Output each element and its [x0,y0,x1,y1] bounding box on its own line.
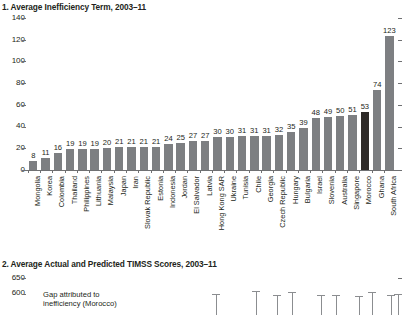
panel1-x-axis-label: Mongolia [33,176,42,206]
panel2-error-bar [216,294,217,315]
panel1-bar-group: 39 [298,18,310,170]
panel1-x-axis-label: Ghana [377,176,386,198]
panel1-bar-group: 31 [261,18,273,170]
panel2-annotation-line1: Gap attributed to [43,290,163,299]
panel1-x-axis-label: Slovenia [327,176,336,204]
panel1-x-tick-mark [261,170,262,173]
panel1-bar-group: 74 [371,18,383,170]
panel1-bar [176,143,184,170]
panel1-bar [262,136,270,170]
panel1-bar [103,148,111,170]
panel1-x-tick-mark [298,170,299,173]
panel1-bar [140,147,148,170]
panel1-x-tick-mark [126,170,127,173]
panel1-x-axis-label: Philippines [82,176,91,212]
panel1-x-axis-label: Georgia [266,176,275,202]
panel-actual-predicted-timss-scores: 2. Average Actual and Predicted TIMSS Sc… [0,258,404,315]
panel1-bar-group: 25 [175,18,187,170]
panel2-title: 2. Average Actual and Predicted TIMSS Sc… [2,259,217,269]
panel1-bar-group: 27 [187,18,199,170]
panel1-bar-group: 21 [150,18,162,170]
panel1-bar [164,144,172,170]
panel1-x-axis-label: Ukraine [229,176,238,201]
panel1-x-tick-mark [273,170,274,173]
panel1-x-tick-mark [347,170,348,173]
panel1-x-tick-mark [359,170,360,173]
panel1-x-tick-mark [236,170,237,173]
panel1-x-axis-label: Latvia [205,176,214,196]
panel1-bar [250,136,258,170]
panel1-bar-group: 31 [249,18,261,170]
panel1-x-axis-label: Iran [131,176,140,189]
panel1-bar [66,149,74,170]
panel1-bar-group: 49 [322,18,334,170]
panel1-bar-group: 123 [384,18,396,170]
panel1-x-axis-label: Indonesia [168,176,177,208]
panel2-error-bar [321,295,322,315]
panel1-x-axis-label: Singapore [352,176,361,210]
panel1-x-tick-mark [322,170,323,173]
panel1-y-tick-mark [22,170,26,171]
panel1-bar [385,36,393,170]
panel1-x-axis-label: Hungary [291,176,300,204]
panel1-x-tick-mark [187,170,188,173]
panel1-x-tick-mark [224,170,225,173]
panel1-x-tick-mark [151,170,152,173]
panel1-bar [299,128,307,170]
panel1-bar-group: 31 [236,18,248,170]
panel1-x-tick-mark [200,170,201,173]
panel1-bar [41,158,49,170]
panel1-bar [238,136,246,170]
panel2-annotation: Gap attributed to inefficiency (Morocco) [43,290,163,309]
panel1-bar [336,116,344,170]
panel1-bar-group: 30 [212,18,224,170]
panel1-x-axis-label: Morocco [364,176,373,204]
panel1-bar-group: 50 [335,18,347,170]
panel1-x-tick-mark [114,170,115,173]
panel1-bar [115,147,123,170]
panel1-bar [29,161,37,170]
panel1-bar-group: 27 [199,18,211,170]
panel2-error-bar [398,294,399,315]
panel2-y-tick-mark [22,278,26,279]
panel1-bar [275,135,283,170]
panel1-x-axis-label: Israel [315,176,324,194]
panel1-bar-group: 30 [224,18,236,170]
panel1-bar [127,147,135,170]
panel1-bar [213,137,221,170]
panel2-annotation-line2: inefficiency (Morocco) [43,299,163,308]
panel1-bar-group: 20 [101,18,113,170]
panel1-x-axis-label: Malaysia [106,176,115,205]
panel1-x-axis-label: Korea [45,176,54,196]
panel1-bar [152,147,160,170]
panel1-bar-group: 32 [273,18,285,170]
panel1-x-axis-label: Japan [119,176,128,196]
panel1-x-tick-mark [28,170,29,173]
panel1-x-tick-mark [138,170,139,173]
panel1-bar-group: 24 [163,18,175,170]
panel1-x-axis-label: Slovak Republic [143,176,152,229]
panel1-bar [324,117,332,170]
panel1-x-tick-mark [372,170,373,173]
panel1-bar-group: 21 [138,18,150,170]
panel1-x-axis-label: Australia [340,176,349,205]
panel1-x-tick-mark [52,170,53,173]
panel1-x-tick-mark [175,170,176,173]
panel1-x-tick-mark [249,170,250,173]
panel1-x-axis-label: Czech Republic [278,176,287,228]
panel1-x-tick-mark [65,170,66,173]
panel1-bar-group: 53 [359,18,371,170]
panel2-error-bar [256,291,257,315]
panel1-x-axis-label: Estonia [156,176,165,201]
panel1-x-axis-label: El Salvador [192,176,201,214]
panel1-bar-value-label: 123 [381,26,397,35]
panel2-error-bar [336,295,337,315]
panel1-x-tick-mark [384,170,385,173]
panel1-x-tick-mark [77,170,78,173]
panel1-x-axis-label: Hong Kong SAR [217,176,226,230]
panel2-error-bar [292,292,293,315]
panel1-bar [287,132,295,170]
panel2-error-bar [359,296,360,315]
panel-average-inefficiency-term: 1. Average Inefficiency Term, 2003–11 02… [0,0,404,250]
panel2-error-bar [391,295,392,315]
